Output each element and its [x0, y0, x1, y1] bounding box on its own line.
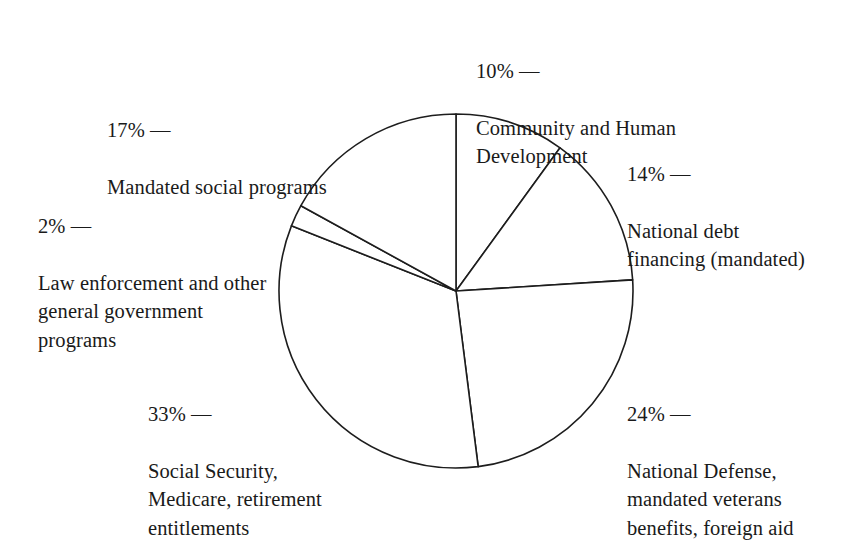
callout-label-social-security: 33% — Social Security, Medicare, retirem… [148, 371, 398, 544]
callout-percent-national-debt: 14% — [627, 160, 865, 189]
callout-text-national-debt: National debt financing (mandated) [627, 217, 865, 274]
callout-percent-mandated-social: 17% — [107, 116, 397, 145]
callout-text-mandated-social: Mandated social programs [107, 173, 397, 202]
callout-percent-social-security: 33% — [148, 400, 398, 429]
callout-label-national-defense: 24% — National Defense, mandated veteran… [627, 371, 865, 544]
callout-label-national-debt: 14% — National debt financing (mandated) [627, 131, 865, 302]
callout-text-social-security: Social Security, Medicare, retirement en… [148, 457, 398, 543]
callout-text-national-defense: National Defense, mandated veterans bene… [627, 457, 865, 543]
callout-label-mandated-social: 17% — Mandated social programs [107, 87, 397, 230]
callout-percent-community: 10% — [476, 57, 776, 86]
callout-text-law-enforcement: Law enforcement and other general govern… [38, 269, 308, 355]
pie-slice-defense [456, 280, 633, 467]
callout-percent-national-defense: 24% — [627, 400, 865, 429]
